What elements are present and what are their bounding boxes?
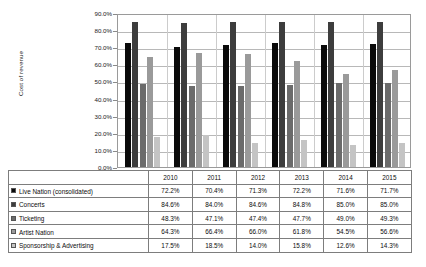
legend-label: Sponsorship & Advertising (19, 240, 94, 251)
y-axis-tick-mark (113, 14, 117, 15)
table-cell-value: 12.6% (324, 238, 368, 252)
bar (203, 135, 209, 167)
bar (252, 143, 258, 167)
bar (174, 47, 180, 167)
plot-region: Cost of revenue 0.0%10.0%20.0%30.0%40.0%… (0, 4, 426, 172)
bar (230, 22, 236, 167)
table-cell-value: 56.6% (367, 225, 411, 239)
bar (238, 86, 244, 167)
table-cell-value: 71.3% (236, 184, 280, 198)
legend-swatch-icon (11, 188, 16, 193)
legend-entry: Ticketing (9, 211, 149, 225)
table-cell-value: 47.7% (280, 211, 324, 225)
y-axis-tick-label: 80.0% (78, 28, 112, 34)
bar (294, 61, 300, 167)
table-cell-value: 71.6% (324, 184, 368, 198)
y-axis-tick-label: 60.0% (78, 62, 112, 68)
table-cell-value: 15.8% (280, 238, 324, 252)
y-axis-tick-label: 40.0% (78, 96, 112, 102)
bar (287, 85, 293, 167)
legend-entry: Sponsorship & Advertising (9, 238, 149, 252)
legend-label: Live Nation (consolidated) (19, 186, 93, 197)
bar-group (118, 15, 167, 167)
table-column-header: 2014 (324, 171, 368, 185)
table-cell-value: 64.3% (149, 225, 193, 239)
y-axis-tick-label: 90.0% (78, 11, 112, 17)
bar (223, 45, 229, 167)
y-axis-tick-mark (113, 151, 117, 152)
legend-swatch-icon (11, 243, 16, 248)
table-cell-value: 71.7% (367, 184, 411, 198)
bar (147, 57, 153, 167)
table-cell-value: 84.6% (149, 198, 193, 212)
table-column-header: 2012 (236, 171, 280, 185)
y-axis-tick-mark (113, 134, 117, 135)
table-cell-value: 49.0% (324, 211, 368, 225)
table-cell-value: 84.6% (236, 198, 280, 212)
bar (399, 143, 405, 167)
bar-group (314, 15, 363, 167)
legend-entry: Live Nation (consolidated) (9, 184, 149, 198)
table-cell-value: 47.1% (192, 211, 236, 225)
bar (279, 22, 285, 167)
bar (370, 44, 376, 167)
y-axis-tick-mark (113, 100, 117, 101)
bar (392, 70, 398, 167)
legend-swatch-icon (11, 202, 16, 207)
legend-entry: Concerts (9, 198, 149, 212)
legend-label: Artist Nation (19, 227, 54, 238)
bar (245, 54, 251, 167)
table-column-header: 2015 (367, 171, 411, 185)
table-row: Artist Nation64.3%66.4%66.0%61.8%54.5%56… (9, 225, 412, 239)
bar (154, 137, 160, 167)
bar (196, 53, 202, 167)
table-cell-value: 14.0% (236, 238, 280, 252)
bar (189, 86, 195, 167)
table-row: Live Nation (consolidated)72.2%70.4%71.3… (9, 184, 412, 198)
bar (385, 83, 391, 167)
bar (336, 83, 342, 167)
table-column-header: 2010 (149, 171, 193, 185)
table-cell-value: 14.3% (367, 238, 411, 252)
bar (377, 22, 383, 167)
bar (350, 145, 356, 167)
table-row: Ticketing48.3%47.1%47.4%47.7%49.0%49.3% (9, 211, 412, 225)
legend-entry: Artist Nation (9, 225, 149, 239)
table-cell-value: 49.3% (367, 211, 411, 225)
y-axis-tick-mark (113, 48, 117, 49)
chart-figure: Cost of revenue 0.0%10.0%20.0%30.0%40.0%… (0, 0, 426, 267)
y-axis-tick-mark (113, 82, 117, 83)
table-cell-value: 72.2% (280, 184, 324, 198)
y-axis-tick-label: 10.0% (78, 148, 112, 154)
bar (272, 43, 278, 167)
y-axis-tick-mark (113, 31, 117, 32)
y-axis-title: Cost of revenue (17, 24, 24, 124)
table-cell-value: 72.2% (149, 184, 193, 198)
bar-group (363, 15, 411, 167)
table-cell-value: 84.0% (192, 198, 236, 212)
bar (328, 22, 334, 167)
bar-group (216, 15, 265, 167)
table-column-header: 2013 (280, 171, 324, 185)
bar (301, 140, 307, 167)
table-cell-value: 61.8% (280, 225, 324, 239)
y-axis-tick-label: 70.0% (78, 45, 112, 51)
table-column-header: 2011 (192, 171, 236, 185)
y-axis-tick-labels: 0.0%10.0%20.0%30.0%40.0%50.0%60.0%70.0%8… (78, 4, 112, 168)
legend-swatch-icon (11, 216, 16, 221)
bar (140, 84, 146, 167)
table-cell-value: 18.5% (192, 238, 236, 252)
legend-label: Ticketing (19, 213, 44, 224)
table-row: Concerts84.6%84.0%84.6%84.8%85.0%85.0% (9, 198, 412, 212)
bar (132, 22, 138, 167)
table-cell-value: 66.0% (236, 225, 280, 239)
y-axis-tick-mark (113, 117, 117, 118)
legend-label: Concerts (19, 199, 45, 210)
table-cell-value: 84.8% (280, 198, 324, 212)
table-cell-value: 48.3% (149, 211, 193, 225)
y-axis-tick-mark (113, 65, 117, 66)
table-cell-value: 47.4% (236, 211, 280, 225)
y-axis-tick-label: 30.0% (78, 114, 112, 120)
table-corner-cell (9, 171, 149, 185)
y-axis-tick-label: 20.0% (78, 131, 112, 137)
